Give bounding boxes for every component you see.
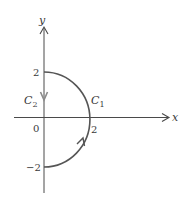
c2-label: C2 [24,94,38,109]
origin-label: 0 [33,123,39,134]
curve-c1 [44,72,90,167]
y-tick-neg2: −2 [26,162,41,173]
x-axis-label: x [172,111,179,124]
c1-label: C1 [91,94,105,109]
y-tick-2: 2 [33,67,39,78]
y-axis-label: y [38,14,46,27]
diagram-canvas: y x 0 2 −2 2 C2 C1 [0,0,186,208]
x-tick-2: 2 [91,124,97,135]
